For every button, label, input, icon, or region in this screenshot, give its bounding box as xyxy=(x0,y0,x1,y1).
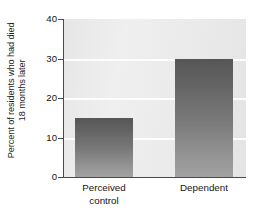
y-tick-label-30: 30 xyxy=(34,54,57,64)
plot-area xyxy=(64,19,246,177)
x-tick-label-dependent: Dependent xyxy=(164,182,244,195)
y-axis-title-line-2: 18 months later xyxy=(18,22,29,158)
x-tick-label-perceived-control-line-1: Perceived xyxy=(64,182,144,195)
x-axis-line xyxy=(63,177,246,178)
y-tick-label-10: 10 xyxy=(34,133,57,143)
x-tick-label-dependent-line-1: Dependent xyxy=(164,182,244,195)
x-tick-label-perceived-control-line-2: control xyxy=(64,195,144,208)
x-tick-label-perceived-control: Perceived control xyxy=(64,182,144,207)
y-tick-label-20: 20 xyxy=(34,93,57,103)
y-axis-title: Percent of residents who had died 18 mon… xyxy=(0,0,36,180)
bar-dependent xyxy=(175,59,233,178)
bar-chart: Percent of residents who had died 18 mon… xyxy=(0,0,256,220)
y-axis-tick-labels: 40 30 20 10 0 xyxy=(34,0,57,220)
y-tick-label-40: 40 xyxy=(34,14,57,24)
x-axis-tick-labels: Perceived control Dependent xyxy=(64,182,246,220)
y-axis-title-line-1: Percent of residents who had died xyxy=(7,22,18,158)
bar-perceived-control xyxy=(75,118,133,177)
y-axis-line xyxy=(63,19,64,178)
y-tick-label-0: 0 xyxy=(34,172,57,182)
